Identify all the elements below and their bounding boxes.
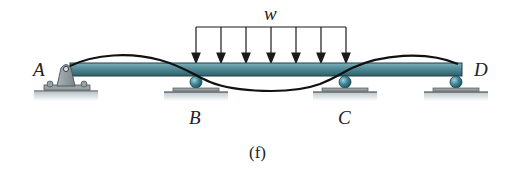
support-label-c: C xyxy=(338,107,351,128)
support-label-d: D xyxy=(473,59,488,80)
distributed-load: w xyxy=(192,3,350,63)
support-label-b: B xyxy=(189,107,201,128)
load-label-w: w xyxy=(264,3,277,24)
ground-shadows xyxy=(34,92,488,101)
continuous-beam-diagram: w A B C D (f) xyxy=(0,0,518,172)
figure-caption: (f) xyxy=(249,143,266,162)
beam xyxy=(70,63,462,76)
support-label-a: A xyxy=(31,59,45,80)
load-arrows xyxy=(192,27,350,63)
